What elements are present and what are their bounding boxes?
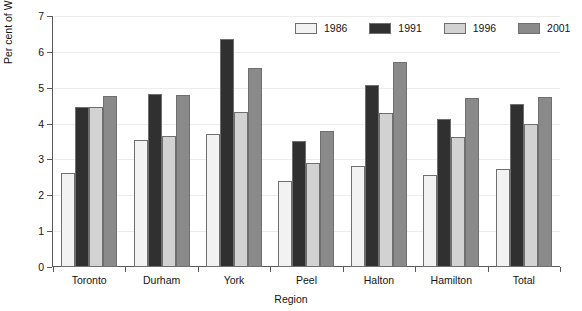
bar-total-1996[interactable]: [524, 124, 538, 267]
y-axis-tick-mark: [47, 88, 52, 89]
bar-halton-1991[interactable]: [365, 85, 379, 268]
x-axis-group-tick: [270, 267, 271, 272]
bar-group-york: [198, 16, 270, 267]
bar-durham-1991[interactable]: [148, 94, 162, 267]
bar-hamilton-1996[interactable]: [451, 137, 465, 267]
bar-set: [415, 16, 487, 267]
bar-halton-1986[interactable]: [351, 166, 365, 267]
bar-chart: 1986199119962001 Per cent of Work-at-Hom…: [0, 0, 582, 311]
bar-peel-1996[interactable]: [306, 163, 320, 267]
bar-york-2001[interactable]: [248, 68, 262, 267]
y-axis-tick-label: 6: [38, 46, 44, 58]
bar-set: [53, 16, 125, 267]
x-axis-group-tick: [488, 267, 489, 272]
bar-total-2001[interactable]: [538, 97, 552, 267]
bar-halton-1996[interactable]: [379, 113, 393, 267]
bar-hamilton-1986[interactable]: [423, 175, 437, 267]
bar-groups: [53, 16, 560, 267]
y-axis-tick-mark: [47, 159, 52, 160]
bar-total-1991[interactable]: [510, 104, 524, 267]
x-axis-group-tick: [198, 267, 199, 272]
x-axis-title: Region: [0, 293, 582, 305]
x-axis-label-hamilton: Hamilton: [415, 274, 487, 286]
bar-york-1986[interactable]: [206, 134, 220, 267]
x-axis-label-halton: Halton: [343, 274, 415, 286]
x-axis-group-tick: [53, 267, 54, 272]
clipped-chart-title: [0, 0, 582, 9]
bar-toronto-1991[interactable]: [75, 107, 89, 267]
bar-hamilton-1991[interactable]: [437, 119, 451, 267]
bar-toronto-1996[interactable]: [89, 107, 103, 267]
bar-peel-1991[interactable]: [292, 141, 306, 267]
bar-group-halton: [343, 16, 415, 267]
x-axis-category-labels: TorontoDurhamYorkPeelHaltonHamiltonTotal: [53, 274, 560, 286]
bar-group-hamilton: [415, 16, 487, 267]
plot-area: 01234567: [52, 16, 560, 267]
y-axis-tick-mark: [47, 124, 52, 125]
x-axis-group-tick: [125, 267, 126, 272]
bar-total-1986[interactable]: [496, 169, 510, 267]
y-axis-tick-label: 3: [38, 153, 44, 165]
x-axis-group-tick: [343, 267, 344, 272]
x-axis-label-peel: Peel: [270, 274, 342, 286]
x-axis-group-tick: [415, 267, 416, 272]
bar-york-1996[interactable]: [234, 112, 248, 267]
bar-group-peel: [270, 16, 342, 267]
y-axis-tick-mark: [47, 195, 52, 196]
y-axis-tick-mark: [47, 16, 52, 17]
x-axis-label-york: York: [198, 274, 270, 286]
bar-group-total: [488, 16, 560, 267]
bar-toronto-2001[interactable]: [103, 96, 117, 267]
bar-group-toronto: [53, 16, 125, 267]
y-axis-tick-mark: [47, 52, 52, 53]
bar-set: [270, 16, 342, 267]
x-axis-group-tick: [560, 267, 561, 272]
x-axis-label-total: Total: [488, 274, 560, 286]
bar-peel-1986[interactable]: [278, 181, 292, 267]
bar-peel-2001[interactable]: [320, 131, 334, 267]
bar-set: [125, 16, 197, 267]
y-axis-tick-mark: [47, 267, 52, 268]
bar-durham-1996[interactable]: [162, 136, 176, 267]
bar-set: [198, 16, 270, 267]
y-axis-tick-label: 1: [38, 225, 44, 237]
y-axis-tick-label: 4: [38, 118, 44, 130]
bar-hamilton-2001[interactable]: [465, 98, 479, 267]
bar-group-durham: [125, 16, 197, 267]
y-axis-tick-label: 0: [38, 261, 44, 273]
y-axis-title: Per cent of Work-at-Homes: [2, 0, 14, 64]
bar-set: [343, 16, 415, 267]
bar-set: [488, 16, 560, 267]
bar-york-1991[interactable]: [220, 39, 234, 267]
y-axis-tick-label: 5: [38, 82, 44, 94]
y-axis-tick-label: 2: [38, 189, 44, 201]
bar-durham-1986[interactable]: [134, 140, 148, 267]
bar-halton-2001[interactable]: [393, 62, 407, 267]
bar-toronto-1986[interactable]: [61, 173, 75, 267]
x-axis-label-toronto: Toronto: [53, 274, 125, 286]
y-axis-tick-mark: [47, 231, 52, 232]
y-axis-tick-label: 7: [38, 10, 44, 22]
x-axis-label-durham: Durham: [125, 274, 197, 286]
bar-durham-2001[interactable]: [176, 95, 190, 267]
